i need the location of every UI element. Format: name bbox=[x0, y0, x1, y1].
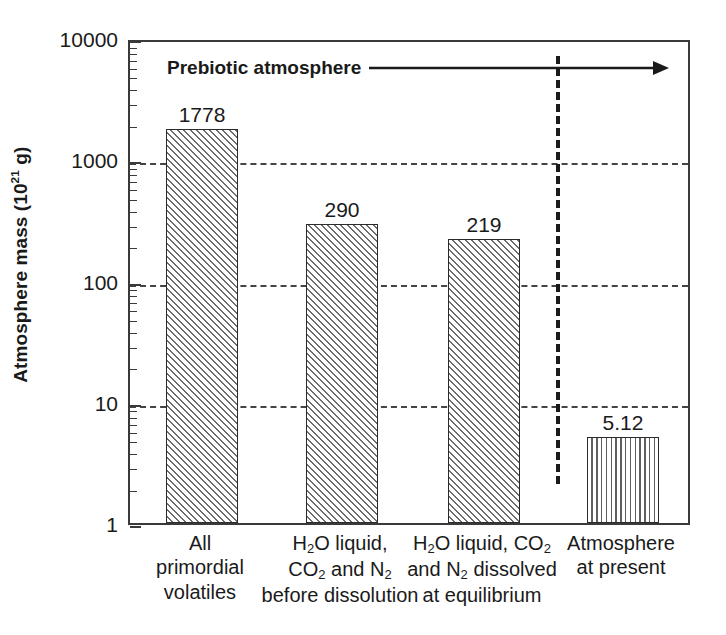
plot-area: 17782902195.12 Prebiotic atmosphere bbox=[128, 40, 690, 525]
y-tick-minor bbox=[130, 212, 137, 213]
bar-value-label-1: 290 bbox=[324, 198, 359, 222]
y-tick-label-10000: 10000 bbox=[38, 28, 118, 52]
y-tick-minor bbox=[130, 425, 137, 426]
bar-value-label-3: 5.12 bbox=[603, 411, 644, 435]
y-tick-minor bbox=[130, 69, 137, 70]
x-category-label-line: Atmosphere bbox=[546, 531, 696, 555]
y-tick-label-100: 100 bbox=[38, 271, 118, 295]
y-tick-minor bbox=[130, 127, 137, 128]
x-category-label-3: Atmosphereat present bbox=[546, 531, 696, 580]
y-tick-minor bbox=[130, 348, 137, 349]
bar-0 bbox=[166, 129, 238, 523]
y-tick-minor bbox=[130, 369, 137, 370]
bar-3 bbox=[587, 437, 659, 523]
y-tick-label-1000: 1000 bbox=[38, 149, 118, 173]
y-tick-major-1000 bbox=[130, 162, 141, 164]
prebiotic-annotation-label: Prebiotic atmosphere bbox=[167, 57, 361, 79]
y-tick-major-1 bbox=[130, 526, 141, 528]
bar-1 bbox=[306, 224, 378, 523]
y-tick-minor bbox=[130, 227, 137, 228]
y-tick-minor bbox=[130, 248, 137, 249]
y-axis-title: Atmosphere mass (1021 g) bbox=[0, 0, 40, 530]
bar-value-label-0: 1778 bbox=[179, 103, 226, 127]
prebiotic-divider-line bbox=[556, 56, 560, 484]
y-tick-minor bbox=[130, 418, 137, 419]
y-tick-label-10: 10 bbox=[38, 392, 118, 416]
y-tick-minor bbox=[130, 78, 137, 79]
y-tick-minor bbox=[130, 303, 137, 304]
chart-figure: Atmosphere mass (1021 g) 100001000100101… bbox=[0, 0, 726, 635]
x-category-label-line: at equilibrium bbox=[387, 583, 577, 607]
y-tick-major-10000 bbox=[130, 41, 141, 43]
bar-value-label-2: 219 bbox=[466, 213, 501, 237]
y-tick-minor bbox=[130, 290, 137, 291]
y-axis-title-post: g) bbox=[10, 147, 31, 171]
prebiotic-annotation: Prebiotic atmosphere bbox=[167, 57, 669, 79]
y-tick-minor bbox=[130, 411, 137, 412]
y-tick-minor bbox=[130, 90, 137, 91]
bar-2 bbox=[448, 239, 520, 523]
y-tick-minor bbox=[130, 454, 137, 455]
y-tick-label-1: 1 bbox=[38, 513, 118, 537]
y-tick-minor bbox=[130, 200, 137, 201]
y-tick-minor bbox=[130, 54, 137, 55]
y-axis-title-pre: Atmosphere mass (10 bbox=[10, 184, 31, 383]
y-tick-minor bbox=[130, 48, 137, 49]
y-tick-minor bbox=[130, 296, 137, 297]
y-tick-minor bbox=[130, 61, 137, 62]
y-tick-major-10 bbox=[130, 405, 141, 407]
arrow-right-icon bbox=[369, 59, 669, 77]
y-tick-minor bbox=[130, 469, 137, 470]
y-tick-minor bbox=[130, 433, 137, 434]
y-tick-minor bbox=[130, 442, 137, 443]
y-tick-minor bbox=[130, 321, 137, 322]
y-tick-minor bbox=[130, 491, 137, 492]
y-tick-minor bbox=[130, 175, 137, 176]
y-tick-major-100 bbox=[130, 284, 141, 286]
y-tick-minor bbox=[130, 333, 137, 334]
y-tick-minor bbox=[130, 190, 137, 191]
y-axis-title-exponent: 21 bbox=[8, 170, 21, 183]
y-tick-minor bbox=[130, 182, 137, 183]
y-axis-title-text: Atmosphere mass (1021 g) bbox=[8, 147, 31, 383]
y-tick-minor bbox=[130, 311, 137, 312]
y-tick-minor bbox=[130, 169, 137, 170]
x-category-label-line: at present bbox=[546, 555, 696, 579]
y-tick-minor bbox=[130, 105, 137, 106]
